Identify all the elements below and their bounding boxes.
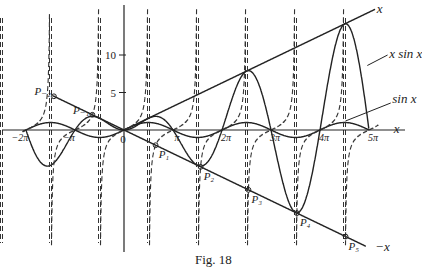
label-line-minus-x: −x [375,239,390,252]
y-tick-label: 5 [111,87,117,99]
series-x-sin-x [26,24,369,213]
x-tick-label: −π [63,132,76,143]
x-tick-label: 4π [319,132,330,143]
point-label: P₋₂ [34,85,52,97]
label-x-axis: x [393,121,400,136]
point-label: P₃ [250,193,262,205]
figure-caption: Fig. 18 [195,252,232,268]
point-label: P₁ [158,148,170,160]
tan-x-branch [150,6,197,245]
y-tick-label: 10 [105,49,117,61]
point-label: P₅ [348,240,360,252]
point-label: P₄ [299,216,311,228]
tan-x-branch [23,12,50,131]
figure-plot: 5100−2π−ππ2π3π4π5πx sin xsin xx−xxP₋₂P₋₁… [0,0,422,252]
tan-x-branch [346,125,379,245]
series-x [124,9,375,130]
x-tick-label: 2π [221,132,232,143]
label-line-x: x [376,1,383,16]
point-label: P₂ [203,170,215,182]
tan-x-branch [199,6,246,245]
point-label: P₋₁ [72,104,90,116]
x-tick-label: −2π [12,132,30,143]
origin-label: 0 [120,133,126,145]
curves-layer [1,6,379,246]
label-x-sin-x: x sin x [388,46,422,61]
tan-x-branch [52,6,99,245]
label-sin-x: sin x [392,91,416,106]
pointer-x-sin-x [367,55,387,66]
tan-x-branch [248,6,295,245]
x-tick-label: 5π [368,132,379,143]
x-tick-label: 3π [269,132,281,143]
axes-layer [2,5,405,252]
